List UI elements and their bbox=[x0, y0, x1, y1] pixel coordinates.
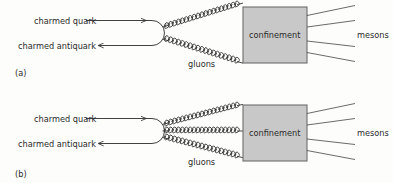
panel-a-label: (a) bbox=[15, 69, 26, 77]
panel-b-mesons-label: mesons bbox=[357, 129, 389, 137]
panel-a-annihilation-vertex bbox=[146, 21, 164, 46]
panel-a-gluon-1 bbox=[164, 1, 239, 28]
panel-b bbox=[86, 102, 355, 161]
panel-a-confinement-label: confinement bbox=[249, 31, 301, 39]
panel-a-gluons-label: gluons bbox=[188, 60, 215, 68]
panel-b-label: (b) bbox=[15, 170, 27, 178]
panel-a-quark-label: charmed quark bbox=[34, 17, 96, 25]
panel-b-quark-label: charmed quark bbox=[34, 115, 96, 123]
panel-b-annihilation-vertex bbox=[146, 119, 165, 144]
panel-b-gluon-3 bbox=[164, 134, 239, 158]
panel-b-gluon-1 bbox=[164, 102, 239, 126]
panel-b-confinement-label: confinement bbox=[249, 129, 301, 137]
panel-a-mesons-label: mesons bbox=[357, 31, 389, 39]
panel-b-gluons-label: gluons bbox=[188, 158, 215, 166]
physics-diagram-figure: charmed quark charmed antiquark gluons c… bbox=[0, 0, 393, 183]
panel-b-gluon-2 bbox=[164, 127, 239, 133]
panel-a bbox=[86, 1, 355, 63]
panel-b-antiquark-label: charmed antiquark bbox=[18, 140, 96, 148]
panel-a-meson-lines bbox=[307, 6, 355, 62]
panel-a-antiquark-label: charmed antiquark bbox=[18, 42, 96, 50]
diagram-canvas bbox=[0, 0, 393, 183]
panel-b-meson-lines bbox=[307, 104, 355, 160]
